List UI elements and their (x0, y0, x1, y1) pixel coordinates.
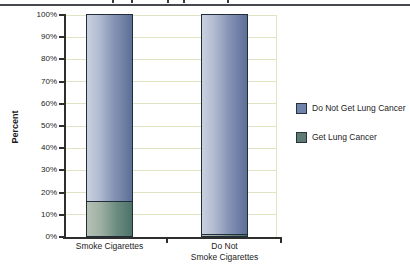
y-axis-tick (59, 103, 65, 105)
legend-label: Do Not Get Lung Cancer (312, 103, 406, 113)
y-tick-label: 70% (22, 77, 57, 87)
y-axis-tick (59, 125, 65, 127)
bar-smoke-cigarettes (86, 14, 133, 237)
y-tick-label: 30% (22, 165, 57, 175)
legend-label: Get Lung Cancer (312, 132, 377, 142)
y-axis-tick (59, 214, 65, 216)
y-tick-label: 0% (22, 232, 57, 242)
segment-do-not-get-lung-cancer (87, 15, 132, 201)
y-axis-tick (59, 236, 65, 238)
page: { "chart_data": { "type": "bar", "varian… (0, 0, 410, 274)
legend-item-get-lung-cancer: Get Lung Cancer (296, 131, 406, 143)
y-axis-tick (59, 169, 65, 171)
y-axis-tick (59, 36, 65, 38)
y-tick-label: 40% (22, 143, 57, 153)
legend-item-do-not-get-lung-cancer: Do Not Get Lung Cancer (296, 102, 406, 114)
y-tick-label: 80% (22, 54, 57, 64)
y-tick-label: 60% (22, 99, 57, 109)
y-tick-label: 90% (22, 32, 57, 42)
segment-do-not-get-lung-cancer (202, 15, 247, 234)
bar-do-not-smoke-cigarettes (201, 14, 248, 237)
x-axis-line (63, 237, 282, 239)
y-tick-label: 100% (22, 10, 57, 20)
y-axis-tick (59, 192, 65, 194)
y-tick-label: 50% (22, 121, 57, 131)
y-tick-label: 10% (22, 210, 57, 220)
y-axis-tick (59, 14, 65, 16)
legend-swatch-blue (296, 103, 307, 114)
y-axis-tick (59, 81, 65, 83)
x-category-label: Do Not Smoke Cigarettes (175, 241, 275, 262)
legend: Do Not Get Lung Cancer Get Lung Cancer (296, 102, 406, 160)
x-axis-end-tick (280, 239, 282, 243)
legend-swatch-green (296, 132, 307, 143)
y-axis-tick (59, 147, 65, 149)
segment-get-lung-cancer (87, 201, 132, 236)
y-axis-tick (59, 58, 65, 60)
plot-area (66, 15, 277, 237)
y-axis-title: Percent (10, 107, 20, 147)
chart: Percent Do Not Get Lung Cancer Get Lung … (0, 0, 410, 274)
x-axis-mid-tick (166, 239, 168, 243)
segment-get-lung-cancer (202, 234, 247, 236)
x-category-label: Smoke Cigarettes (60, 241, 160, 252)
y-tick-label: 20% (22, 188, 57, 198)
